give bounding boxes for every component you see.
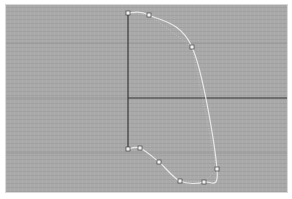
- control-point-handle[interactable]: [126, 11, 130, 15]
- control-point-handle[interactable]: [178, 179, 182, 183]
- control-point-handle[interactable]: [215, 167, 219, 171]
- control-point-handle[interactable]: [138, 146, 142, 150]
- control-point-handle[interactable]: [147, 13, 151, 17]
- axes: [128, 13, 287, 149]
- control-point-handle[interactable]: [157, 160, 161, 164]
- control-point-handle[interactable]: [202, 180, 206, 184]
- control-point-handle[interactable]: [190, 45, 194, 49]
- curve-editor-canvas[interactable]: [0, 0, 292, 199]
- control-point-handle[interactable]: [126, 147, 130, 151]
